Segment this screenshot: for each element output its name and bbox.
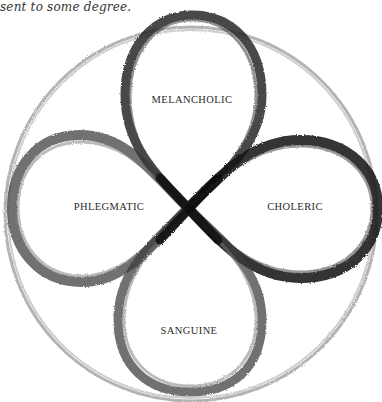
label-melancholic: MELANCHOLIC <box>152 94 233 105</box>
temperament-diagram <box>0 0 382 402</box>
label-choleric: CHOLERIC <box>267 201 323 212</box>
label-phlegmatic: PHLEGMATIC <box>74 201 145 212</box>
label-sanguine: SANGUINE <box>161 325 218 336</box>
